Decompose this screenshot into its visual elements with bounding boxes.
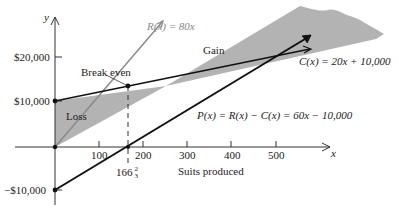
- profit-label: P(x) = R(x) − C(x) = 60x − 10,000: [197, 110, 352, 121]
- y-tick-label-20000: $20,000: [14, 52, 50, 63]
- origin-point: [53, 145, 57, 149]
- cost-label: C(x) = 20x + 10,000: [299, 56, 391, 67]
- break-even-label: Break even: [81, 67, 131, 78]
- chart-canvas: [0, 0, 399, 215]
- x-tick-label-300: 300: [179, 150, 196, 161]
- y-tick-label-neg10000: −$10,000: [4, 185, 46, 196]
- break-even-x-label: 16623: [116, 166, 138, 180]
- x-tick-label-200: 200: [135, 150, 152, 161]
- cost-intercept-point: [53, 99, 58, 104]
- y-axis-label: y: [44, 12, 49, 23]
- y-tick-label-10000: $10,000: [14, 96, 50, 107]
- profit-intercept-point: [53, 188, 58, 193]
- revenue-label: R(x) = 80x: [147, 21, 195, 32]
- x-tick-label-500: 500: [268, 150, 285, 161]
- x-tick-label-400: 400: [224, 150, 241, 161]
- x-axis-title: Suits produced: [178, 166, 244, 177]
- x-axis-label: x: [331, 148, 336, 159]
- gain-label: Gain: [203, 45, 224, 56]
- x-tick-label-100: 100: [91, 150, 108, 161]
- gain-region: [166, 6, 384, 86]
- break-even-point: [126, 84, 131, 89]
- loss-label: Loss: [66, 111, 87, 122]
- revenue-line: [55, 21, 163, 147]
- profit-zero-point: [126, 145, 130, 149]
